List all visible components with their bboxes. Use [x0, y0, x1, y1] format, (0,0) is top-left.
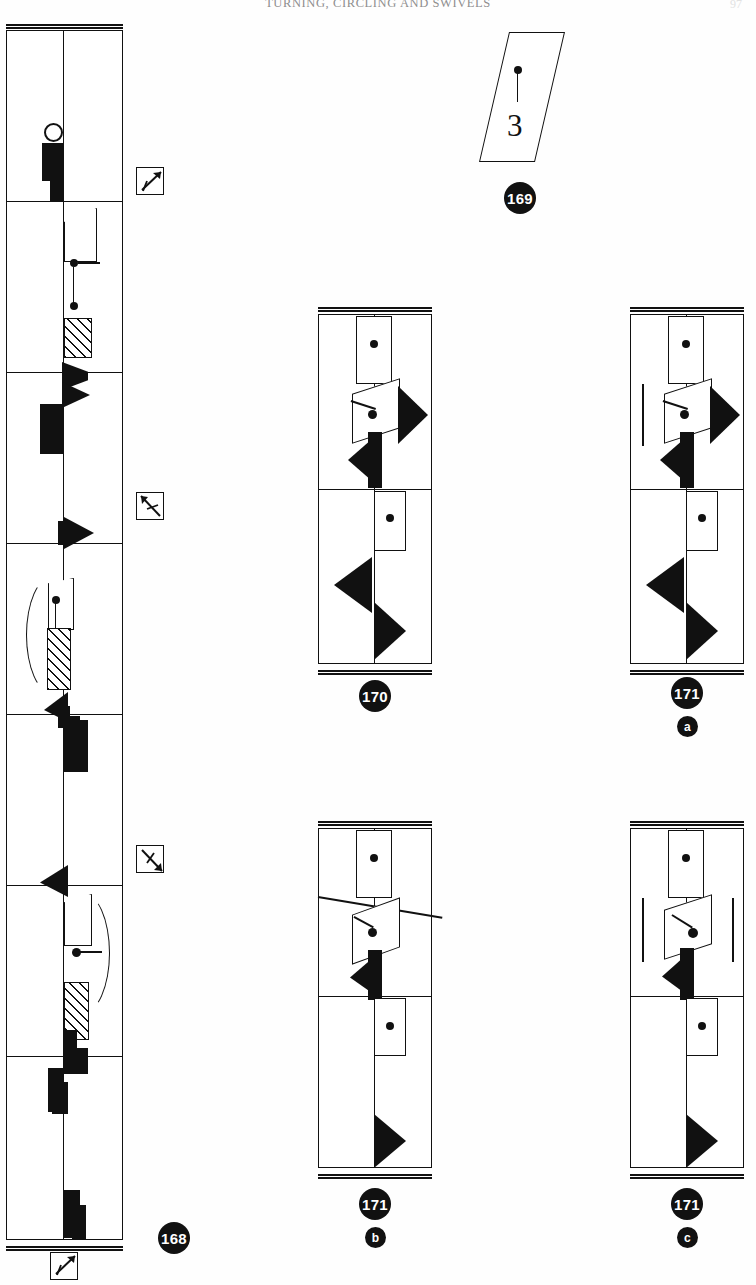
pin-dot-rotation	[368, 928, 377, 937]
running-head: TURNING, CIRCLING AND SWIVELS	[0, 0, 756, 11]
black-arrow-left-top-tail	[680, 948, 694, 1000]
pin-dot-bottom	[386, 1022, 394, 1030]
figure-171b-staff	[318, 828, 432, 1168]
arrow-down-right-icon-2	[136, 845, 166, 875]
pin-stem-169	[517, 72, 518, 102]
direction-block-1-tail	[50, 178, 64, 202]
staff-bottom-double-bar	[318, 1174, 432, 1176]
figure-171c-staff	[630, 828, 744, 1168]
figure-171a-badge: 171	[671, 677, 703, 709]
direction-key-up-right-bottom	[50, 1252, 78, 1280]
vertical-rule-right	[732, 898, 734, 962]
hatched-rotation-sign-2	[47, 628, 71, 690]
direction-block-3-tail	[64, 716, 80, 736]
pin-stem-4	[80, 951, 102, 953]
page-folio: 97	[730, 0, 742, 12]
support-column-box-top	[356, 316, 392, 384]
staff-bottom-double-bar	[630, 670, 744, 672]
pin-stem-2	[73, 267, 74, 303]
black-arrow-left-top-tail	[368, 432, 382, 488]
staff-bottom-double-bar	[6, 1246, 123, 1248]
direction-block-4-foot	[63, 1048, 88, 1074]
pin-dot-top	[370, 854, 378, 862]
direction-block-5-foot	[52, 1082, 68, 1114]
support-column-box-top	[668, 316, 704, 384]
pin-dot-top	[682, 854, 690, 862]
pin-dot-rotation	[680, 410, 689, 419]
pin-dot-rotation	[368, 410, 377, 419]
staff-top-double-bar	[630, 821, 744, 823]
figure-168-badge: 168	[158, 1222, 190, 1254]
figure-170-staff	[318, 314, 432, 664]
figure-171b-badge: 171	[359, 1188, 391, 1220]
pin-dot-top	[682, 340, 690, 348]
black-arrow-left-top-tail	[368, 950, 382, 1000]
support-column-box-top	[668, 830, 704, 898]
vertical-rule-left	[642, 384, 644, 446]
pin-dot-top	[370, 340, 378, 348]
direction-key-up-right	[136, 167, 164, 195]
pin-plate-numeral: 3	[507, 110, 523, 141]
staff-top-double-bar	[630, 307, 744, 309]
direction-block-6-foot	[72, 1205, 86, 1239]
support-ring-symbol	[44, 123, 63, 142]
figure-171a-staff	[630, 314, 744, 664]
pin-dot-2	[70, 302, 78, 310]
support-column-box-top	[356, 830, 392, 898]
figure-171c-badge: 171	[671, 1188, 703, 1220]
arrow-up-right-icon	[136, 167, 166, 197]
figure-171c-sub-badge: c	[677, 1227, 698, 1248]
figure-171a-sub-badge: a	[677, 716, 698, 737]
staff-bottom-double-bar	[630, 1174, 744, 1176]
figure-169: 3	[494, 32, 564, 172]
pin-dot-rotation	[688, 928, 698, 938]
measure-line-1	[6, 201, 123, 202]
notation-page: TURNING, CIRCLING AND SWIVELS 97	[0, 0, 756, 1285]
staff-top-double-bar	[318, 307, 432, 309]
pin-dot-bottom	[698, 1022, 706, 1030]
direction-block-2	[40, 404, 64, 454]
staff-top-double-bar	[318, 821, 432, 823]
hatched-rotation-sign-1	[64, 318, 92, 358]
figure-170-badge: 170	[359, 680, 391, 712]
black-arrow-2-stem	[58, 521, 68, 545]
direction-block-1	[42, 143, 64, 181]
figure-171b-sub-badge: b	[365, 1227, 386, 1248]
black-arrow-left-top-tail	[680, 432, 694, 488]
pin-dot-bottom	[698, 514, 706, 522]
figure-168-staff	[6, 30, 123, 1240]
arrow-up-right-icon-2	[50, 1252, 80, 1282]
rotation-sign-2	[48, 578, 74, 630]
staff-top-double-bar	[6, 24, 123, 26]
rotation-sign-3	[64, 894, 92, 946]
figure-169-badge: 169	[504, 182, 536, 214]
pin-dot-bottom	[386, 514, 394, 522]
arrow-down-right-icon	[136, 492, 166, 522]
pin-dot-1	[70, 259, 78, 267]
pin-stem-1	[78, 262, 100, 264]
direction-key-down-right-low	[136, 845, 164, 873]
staff-bottom-double-bar	[318, 670, 432, 672]
direction-key-down-right	[136, 492, 164, 520]
pin-stem-3	[55, 603, 56, 631]
vertical-rule-left	[642, 898, 644, 962]
